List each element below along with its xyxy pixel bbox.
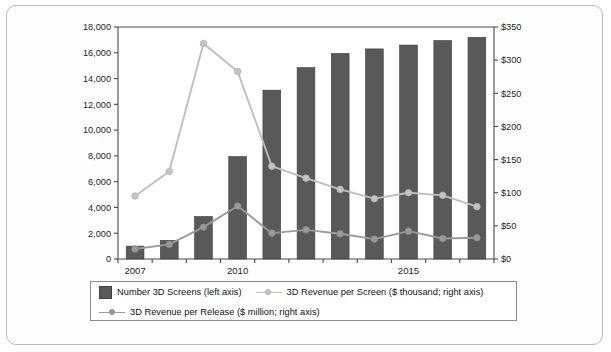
data-point-revenue-per-screen <box>303 175 310 182</box>
data-point-revenue-per-screen <box>234 68 241 75</box>
x-axis: 200720102015 <box>118 259 494 276</box>
right-axis-tick-label: $350 <box>501 22 521 32</box>
data-point-revenue-per-release <box>337 231 344 238</box>
data-point-revenue-per-screen <box>200 40 207 47</box>
left-axis-tick-label: 2,000 <box>88 229 111 239</box>
data-point-revenue-per-release <box>234 203 241 210</box>
left-axis: 02,0004,0006,0008,00010,00012,00014,0001… <box>83 22 118 264</box>
left-axis-tick-label: 0 <box>106 254 111 264</box>
line-marker-dark-icon <box>99 307 125 318</box>
right-axis-tick-label: $200 <box>501 122 521 132</box>
x-axis-tick-label: 2007 <box>124 265 145 276</box>
left-axis-tick-label: 14,000 <box>83 74 111 84</box>
data-point-revenue-per-release <box>474 234 481 241</box>
x-axis-tick-label: 2015 <box>398 265 419 276</box>
data-point-revenue-per-release <box>405 228 412 235</box>
data-point-revenue-per-screen <box>132 193 139 200</box>
data-point-revenue-per-screen <box>337 186 344 193</box>
data-point-revenue-per-release <box>303 227 310 234</box>
data-point-revenue-per-release <box>132 246 139 253</box>
bar <box>331 53 349 259</box>
bar <box>468 37 486 259</box>
right-axis-tick-label: $300 <box>501 55 521 65</box>
legend-row-2: 3D Revenue per Release ($ million; right… <box>91 302 516 322</box>
legend-label-number-3d-screens: Number 3D Screens (left axis) <box>117 287 242 297</box>
bar-swatch-icon <box>99 286 112 299</box>
right-axis-tick-label: $0 <box>501 254 511 264</box>
bar <box>365 49 383 259</box>
data-point-revenue-per-release <box>439 235 446 242</box>
legend-label-revenue-per-screen: 3D Revenue per Screen ($ thousand; right… <box>287 287 484 297</box>
left-axis-tick-label: 10,000 <box>83 125 111 135</box>
data-point-revenue-per-release <box>200 224 207 231</box>
legend-row-1: Number 3D Screens (left axis) 3D Revenue… <box>91 282 516 302</box>
data-point-revenue-per-release <box>269 230 276 237</box>
right-axis-tick-label: $50 <box>501 221 516 231</box>
left-axis-tick-label: 4,000 <box>88 203 111 213</box>
data-point-revenue-per-screen <box>269 163 276 170</box>
data-point-revenue-per-release <box>371 236 378 243</box>
legend-entry-number-3d-screens[interactable]: Number 3D Screens (left axis) <box>99 286 242 299</box>
bar <box>434 41 452 259</box>
left-axis-tick-label: 8,000 <box>88 151 111 161</box>
legend-label-revenue-per-release: 3D Revenue per Release ($ million; right… <box>130 307 320 317</box>
right-axis-tick-label: $100 <box>501 188 521 198</box>
left-axis-tick-label: 16,000 <box>83 48 111 58</box>
left-axis-tick-label: 6,000 <box>88 177 111 187</box>
legend-entry-revenue-per-release[interactable]: 3D Revenue per Release ($ million; right… <box>99 307 320 318</box>
data-point-revenue-per-screen <box>166 168 173 175</box>
data-point-revenue-per-screen <box>474 203 481 210</box>
right-axis-tick-label: $150 <box>501 155 521 165</box>
data-point-revenue-per-screen <box>405 189 412 196</box>
data-point-revenue-per-screen <box>439 192 446 199</box>
legend-entry-revenue-per-screen[interactable]: 3D Revenue per Screen ($ thousand; right… <box>256 287 484 298</box>
x-axis-tick-label: 2010 <box>227 265 248 276</box>
bar <box>400 45 418 259</box>
data-point-revenue-per-release <box>166 241 173 248</box>
right-axis-tick-label: $250 <box>501 89 521 99</box>
left-axis-tick-label: 12,000 <box>83 100 111 110</box>
left-axis-tick-label: 18,000 <box>83 22 111 32</box>
line-marker-light-icon <box>256 287 282 298</box>
chart-legend: Number 3D Screens (left axis) 3D Revenue… <box>90 281 517 321</box>
data-point-revenue-per-screen <box>371 195 378 202</box>
